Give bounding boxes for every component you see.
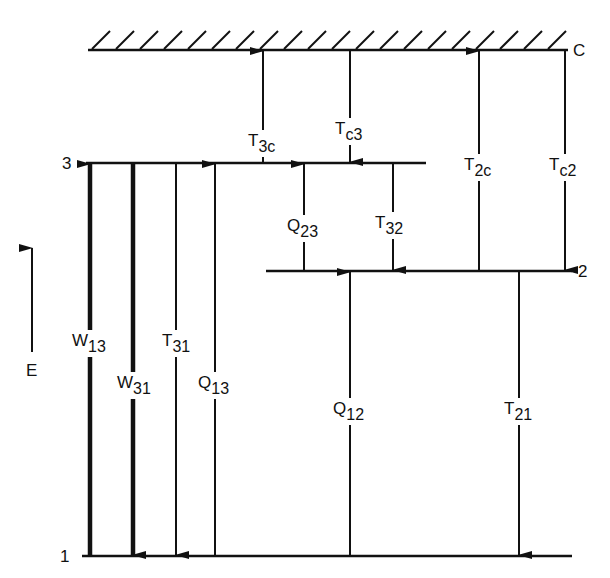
transition-label-w31: W31 (117, 372, 151, 399)
hatch-marks (92, 31, 566, 49)
level-1-label: 1 (60, 548, 69, 565)
level-2-label: 2 (578, 263, 587, 280)
transition-label-tc2: Tc2 (549, 154, 576, 181)
energy-axis-label: E (26, 362, 37, 379)
energy-level-diagram: C 3 2 1 E W13 W31 T31 Q13 T3c Tc3 Q23 T3… (0, 0, 610, 578)
transition-label-t3c: T3c (248, 130, 275, 157)
transition-label-t31: T31 (162, 330, 190, 357)
level-3-label: 3 (62, 155, 71, 172)
transition-label-t21: T21 (504, 398, 532, 425)
diagram-lines (0, 0, 610, 578)
transition-label-q23: Q23 (287, 215, 318, 242)
transition-label-q13: Q13 (198, 372, 229, 399)
transition-label-tc3: Tc3 (335, 118, 362, 145)
level-c-label: C (573, 42, 585, 59)
transition-label-q12: Q12 (333, 398, 364, 425)
transition-label-t32: T32 (375, 212, 403, 239)
transition-label-t2c: T2c (464, 154, 491, 181)
transition-label-w13: W13 (72, 330, 106, 357)
